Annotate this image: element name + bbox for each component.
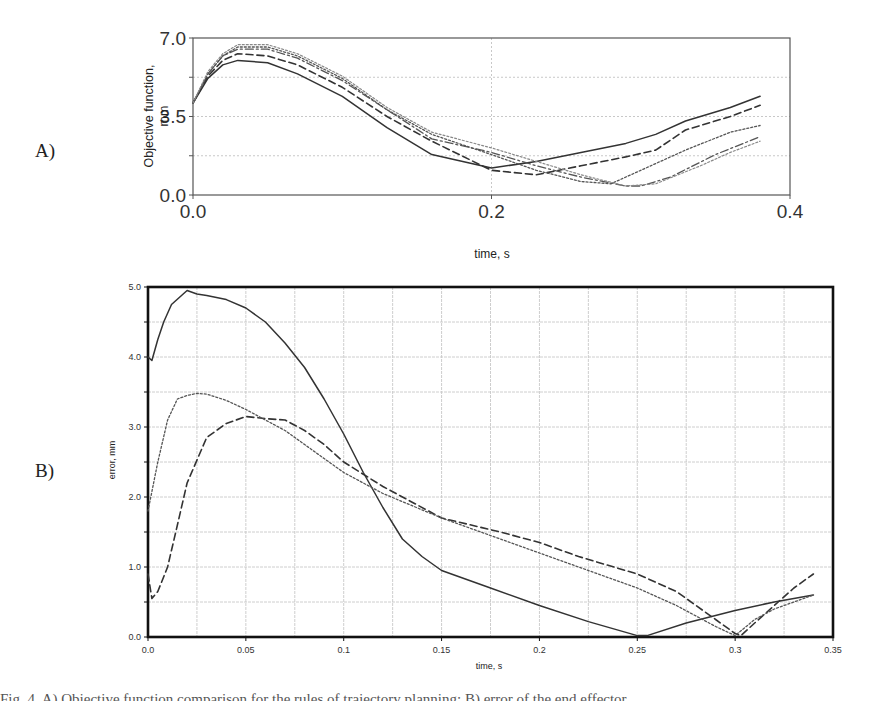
y-tick-label: 1.0 [128, 562, 141, 572]
x-tick-label: 0.2 [533, 645, 546, 655]
y-tick-label: 4.0 [128, 352, 141, 362]
y-tick-label: 5.0 [128, 282, 141, 292]
x-tick-label: 0.0 [142, 645, 155, 655]
x-tick-label: 0.1 [337, 645, 350, 655]
series-line-dashed [148, 417, 813, 636]
chart-b-error: 0.01.02.03.04.05.00.00.050.10.150.20.250… [0, 0, 881, 701]
y-tick-label: 0.0 [128, 632, 141, 642]
x-tick-label: 0.05 [237, 645, 255, 655]
series-group [148, 291, 813, 636]
y-tick-label: 3.0 [128, 422, 141, 432]
y-axis-label: error, mm [107, 441, 117, 480]
x-tick-label: 0.3 [729, 645, 742, 655]
grid-lines [148, 287, 833, 637]
figure-caption: Fig. 4. A) Objective function comparison… [0, 686, 881, 701]
x-tick-label: 0.35 [824, 645, 842, 655]
series-line-solid [148, 291, 813, 636]
y-tick-label: 2.0 [128, 492, 141, 502]
series-line-dotted [148, 393, 813, 635]
x-tick-label: 0.15 [433, 645, 451, 655]
x-axis-label: time, s [476, 661, 503, 671]
x-tick-label: 0.25 [629, 645, 647, 655]
